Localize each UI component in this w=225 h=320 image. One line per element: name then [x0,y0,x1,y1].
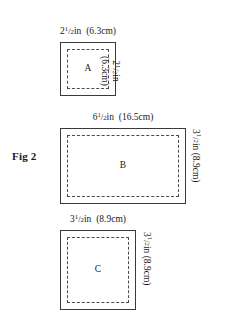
shape-a-right-dimension-line1: 21/2in [110,46,121,96]
figure-caption: Fig 2 [12,150,37,162]
shape-c-top-dimension: 31/2in (8.9cm) [58,214,138,224]
shape-b-right-dimension-text: 31/2in (8.9cm) [191,129,201,183]
shape-a-top-dimension-text: 21/2in (6.3cm) [60,26,116,36]
shape-b-right-dimension: 31/2in (8.9cm) [190,129,201,203]
shape-c-right-dimension: 31/2in (8.9cm) [141,232,152,308]
shape-c-right-dimension-text: 31/2in (8.9cm) [142,232,152,286]
shape-c: C [60,230,136,310]
shape-b-top-dimension-text: 61/2in (16.5cm) [93,112,154,122]
shape-a-right-dimension: 21/2in (6.3cm) [99,46,121,96]
shape-c-top-dimension-text: 31/2in (8.9cm) [70,214,126,224]
figure-diagram: 21/2in (6.3cm) A 21/2in (6.3cm) Fig 2 61… [0,0,225,320]
shape-b-label: B [61,161,185,171]
shape-c-label: C [61,265,135,275]
shape-b: B [60,128,186,204]
shape-a-right-dimension-line2: (6.3cm) [99,46,110,96]
shape-a-top-dimension: 21/2in (6.3cm) [60,26,116,36]
shape-b-top-dimension: 61/2in (16.5cm) [60,112,186,122]
